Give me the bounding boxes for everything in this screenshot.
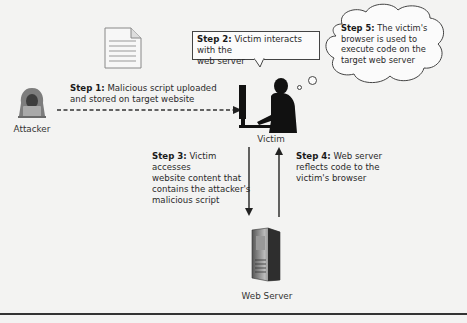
arrow-down-step3 [244, 147, 254, 217]
person-at-computer-icon [237, 77, 301, 135]
dashed-arrow-step1 [55, 105, 245, 115]
step2-callout: Step 2: Victim interacts with the web se… [192, 31, 320, 60]
step3-line3: contains the attacker's [152, 184, 250, 194]
thought-bubble-large [308, 76, 317, 85]
server-tower-icon [250, 226, 282, 282]
step3-text: Step 3: Victim accesses website content … [152, 151, 252, 206]
bottom-rule [0, 313, 467, 315]
step4-line2: reflects code to the [296, 162, 380, 172]
step2-title: Step 2: [197, 34, 232, 44]
step5-text: Step 5: The victim's browser is used to … [341, 23, 441, 65]
web-server-label: Web Server [236, 291, 298, 301]
step2-line2: web server [197, 56, 245, 66]
step3-line4: malicious script [152, 195, 219, 205]
attacker-label: Attacker [8, 124, 56, 134]
step4-text: Step 4: Web server reflects code to the … [296, 151, 396, 184]
step5-line4: target web server [341, 55, 415, 65]
step5-line3: execute code on the [341, 44, 426, 54]
hooded-hacker-icon [15, 86, 49, 120]
victim-label: Victim [246, 134, 296, 144]
step4-title: Step 4: [296, 151, 331, 161]
step3-line2: website content that [152, 173, 241, 183]
attacker-node: Attacker [10, 86, 54, 136]
arrow-up-step4 [274, 147, 284, 217]
step5-line1: The victim's [377, 23, 427, 33]
step4-line1: Web server [333, 151, 382, 161]
step5-title: Step 5: [341, 23, 375, 33]
step5-line2: browser is used to [341, 34, 417, 44]
step1-line1: Malicious script uploaded [107, 83, 216, 93]
step1-title: Step 1: [70, 83, 105, 93]
step1-line2: and stored on target website [70, 94, 194, 104]
step4-line3: victim's browser [296, 173, 366, 183]
step1-text: Step 1: Malicious script uploaded and st… [70, 83, 230, 105]
step3-title: Step 3: [152, 151, 187, 161]
step2-callout-tail [254, 58, 268, 68]
document-icon [104, 27, 142, 69]
